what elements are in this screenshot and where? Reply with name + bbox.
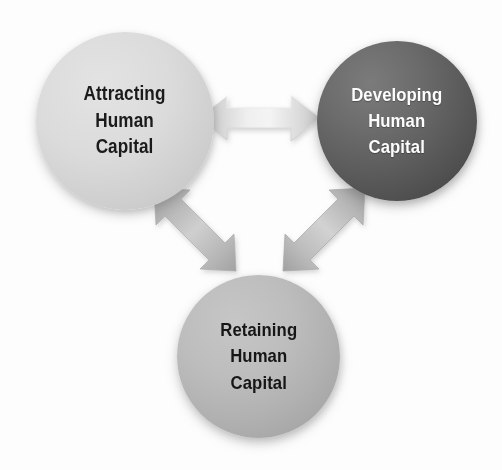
node-retaining-human-capital[interactable]: Retaining Human Capital	[177, 275, 340, 438]
node-attracting-human-capital[interactable]: Attracting Human Capital	[36, 32, 214, 210]
connector-attracting-retaining	[154, 188, 236, 271]
connector-retaining-developing	[283, 188, 365, 271]
node-retaining-label: Retaining Human Capital	[220, 317, 297, 396]
node-developing-label: Developing Human Capital	[352, 82, 443, 161]
node-attracting-label: Attracting Human Capital	[84, 80, 166, 163]
node-developing-human-capital[interactable]: Developing Human Capital	[317, 41, 477, 201]
connector-attracting-developing	[199, 95, 320, 141]
human-capital-cycle-diagram: Attracting Human Capital Developing Huma…	[0, 0, 502, 470]
